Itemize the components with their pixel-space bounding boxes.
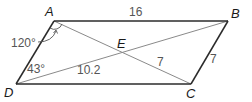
vertex-label-B: B	[231, 6, 240, 21]
vertex-label-A: A	[44, 4, 54, 19]
length-label-AB: 16	[129, 5, 143, 19]
vertex-label-D: D	[4, 85, 13, 100]
angle-label-D: 43°	[27, 62, 45, 76]
length-label-DE: 10.2	[77, 63, 101, 77]
length-label-BC: 7	[210, 52, 217, 66]
vertex-label-E: E	[117, 36, 126, 51]
parallelogram-diagram: A B C D E 16 7 7 10.2 120° 43°	[0, 0, 252, 102]
angle-label-A: 120°	[11, 36, 36, 50]
vertex-label-C: C	[186, 86, 196, 101]
length-label-EC: 7	[157, 55, 164, 69]
